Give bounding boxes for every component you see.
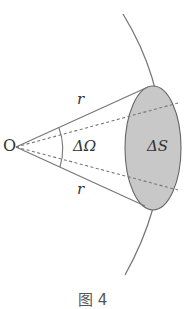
area-label: ΔS [147, 139, 168, 154]
angle-arc [59, 128, 63, 167]
radius-label-top: r [77, 92, 84, 107]
radius-label-bottom: r [77, 182, 84, 197]
solid-angle-label: ΔΩ [73, 139, 96, 154]
origin-label: O [3, 138, 16, 154]
figure-caption: 图 4 [78, 293, 107, 308]
